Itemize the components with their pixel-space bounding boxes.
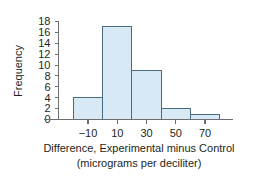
- x-axis-tick-marks: [88, 120, 205, 125]
- y-axis-tick-labels: 024681012141618: [38, 15, 50, 125]
- histogram-chart: Frequency 024681012141618 −1010305070 Di…: [0, 0, 255, 178]
- y-axis-tick-label: 18: [38, 15, 50, 27]
- y-axis-title: Frequency: [12, 45, 24, 97]
- histogram-bar: [161, 109, 190, 120]
- x-axis-tick-label: 70: [199, 127, 211, 139]
- histogram-bar: [73, 98, 102, 120]
- y-axis-tick-label: 2: [44, 102, 50, 114]
- y-axis-tick-label: 4: [44, 92, 50, 104]
- histogram-bar: [190, 114, 219, 119]
- y-axis-tick-label: 10: [38, 59, 50, 71]
- x-axis-tick-label: 10: [111, 127, 123, 139]
- histogram-bar: [103, 27, 132, 120]
- x-axis-tick-labels: −1010305070: [79, 127, 211, 139]
- chart-canvas: Frequency 024681012141618 −1010305070 Di…: [0, 0, 255, 178]
- x-axis-title: Difference, Experimental minus Control: [43, 142, 234, 154]
- x-axis-title-units: (micrograms per deciliter): [77, 157, 202, 169]
- x-axis-tick-label: 30: [140, 127, 152, 139]
- histogram-bar: [132, 71, 161, 120]
- y-axis-tick-label: 16: [38, 26, 50, 38]
- y-axis-tick-label: 6: [44, 81, 50, 93]
- y-axis-tick-label: 8: [44, 70, 50, 82]
- y-axis-tick-label: 14: [38, 37, 50, 49]
- bars-group: [73, 27, 219, 120]
- x-axis-tick-label: 50: [170, 127, 182, 139]
- y-axis-tick-marks: [55, 22, 59, 120]
- x-axis-tick-label: −10: [79, 127, 98, 139]
- y-axis-tick-label: 12: [38, 48, 50, 60]
